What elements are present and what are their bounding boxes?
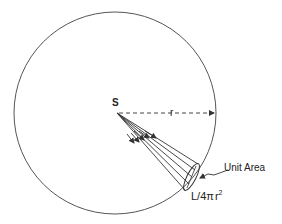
inverse-square-diagram: S r Unit Area L/4πr2: [0, 0, 282, 224]
diagram-canvas: S r Unit Area L/4πr2: [0, 0, 282, 224]
source-label: S: [112, 97, 119, 108]
flux-label: L/4πr2: [191, 189, 223, 202]
unit-area-label: Unit Area: [224, 162, 266, 173]
radius-label: r: [170, 107, 174, 118]
